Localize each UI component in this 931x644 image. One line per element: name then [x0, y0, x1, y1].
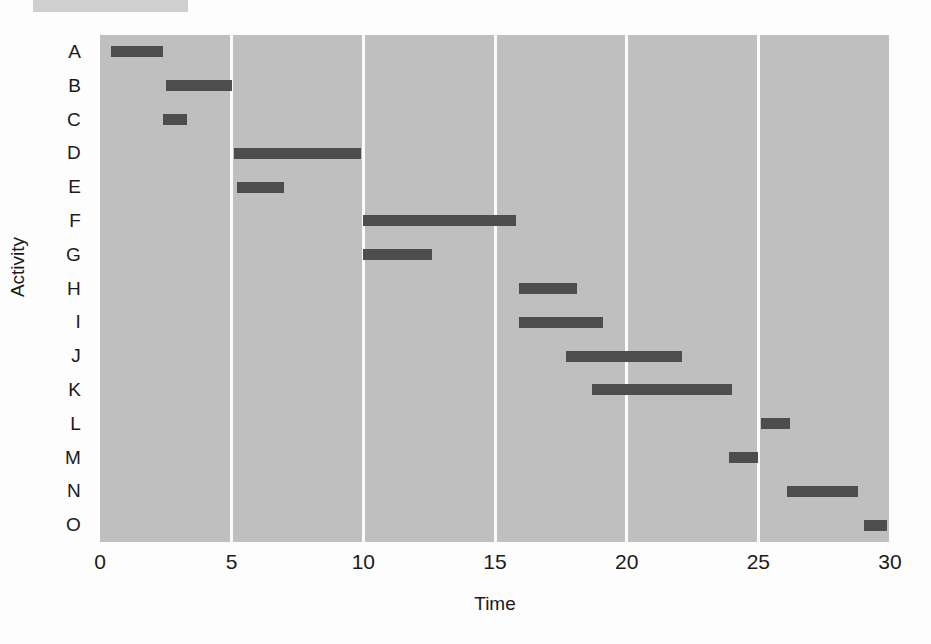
gantt-bar-K: [592, 384, 732, 395]
y-tick-label-I: I: [76, 311, 81, 333]
gantt-bar-B: [166, 80, 232, 91]
gridline-x-5: [230, 35, 233, 542]
x-tick-label-15: 15: [483, 550, 506, 574]
y-tick-label-C: C: [67, 109, 81, 131]
gridline-x-25: [757, 35, 760, 542]
y-tick-label-F: F: [69, 210, 81, 232]
gantt-bar-G: [363, 249, 431, 260]
gantt-bar-H: [519, 283, 577, 294]
x-axis-tick-labels: 051015202530: [100, 550, 890, 578]
y-tick-label-L: L: [70, 413, 81, 435]
header-swatch: [33, 0, 188, 12]
x-tick-label-0: 0: [94, 550, 106, 574]
gantt-bar-C: [163, 114, 187, 125]
y-tick-label-O: O: [66, 514, 81, 536]
x-tick-label-20: 20: [615, 550, 638, 574]
gridline-x-30: [889, 35, 892, 542]
x-tick-label-10: 10: [352, 550, 375, 574]
y-tick-label-K: K: [68, 379, 81, 401]
gantt-bar-O: [864, 520, 888, 531]
y-tick-label-G: G: [66, 244, 81, 266]
y-tick-label-J: J: [71, 345, 81, 367]
gantt-bar-D: [234, 148, 360, 159]
x-tick-label-5: 5: [226, 550, 238, 574]
y-tick-label-M: M: [65, 447, 81, 469]
y-tick-label-H: H: [67, 278, 81, 300]
gantt-bar-A: [111, 46, 164, 57]
gantt-bar-F: [363, 215, 516, 226]
gantt-bar-E: [237, 182, 284, 193]
gantt-chart-plot-area: [100, 35, 890, 542]
x-tick-label-25: 25: [747, 550, 770, 574]
y-tick-label-E: E: [68, 176, 81, 198]
y-axis-title: Activity: [7, 197, 29, 337]
y-tick-label-B: B: [68, 75, 81, 97]
gridline-x-10: [362, 35, 365, 542]
x-axis-title: Time: [100, 593, 890, 615]
y-tick-label-A: A: [68, 41, 81, 63]
x-tick-label-30: 30: [878, 550, 901, 574]
y-tick-label-D: D: [67, 142, 81, 164]
gridline-x-15: [494, 35, 497, 542]
gantt-bar-N: [787, 486, 858, 497]
y-tick-label-N: N: [67, 480, 81, 502]
gridline-x-20: [625, 35, 628, 542]
gantt-bar-J: [566, 351, 682, 362]
gantt-bar-I: [519, 317, 603, 328]
gantt-bar-M: [729, 452, 758, 463]
gantt-bar-L: [761, 418, 790, 429]
